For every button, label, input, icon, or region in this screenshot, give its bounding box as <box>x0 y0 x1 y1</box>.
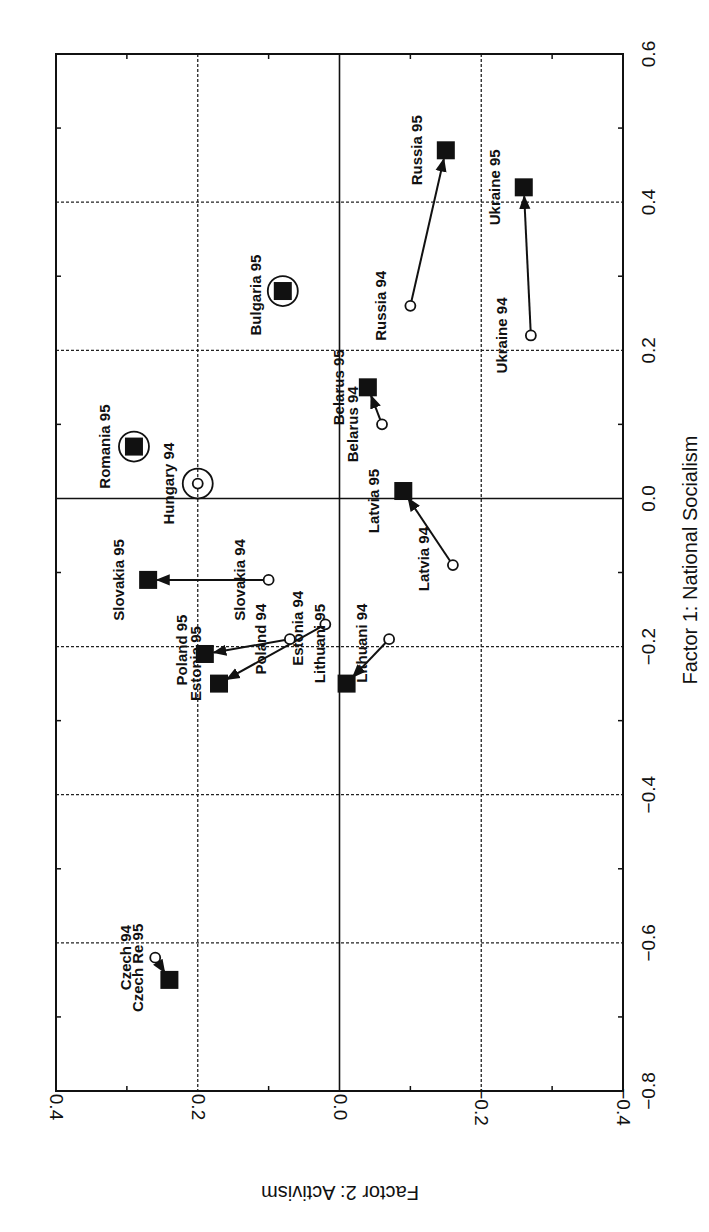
x-tick-label: −0.6 <box>638 924 659 962</box>
arrow-poland94-to-poland95 <box>214 640 285 652</box>
arrow-estonia94-to-estonia95 <box>227 627 321 679</box>
y-tick-label: −0.2 <box>471 1088 492 1126</box>
point-label-russia94: Russia 94 <box>372 270 389 341</box>
marker-square-russia95 <box>437 141 455 159</box>
point-label-bulgaria95: Bulgaria 95 <box>247 255 264 336</box>
scatter-chart: −0.8−0.6−0.4−0.20.00.20.40.6−0.4−0.20.00… <box>0 0 709 1232</box>
x-axis-title: Factor 1: National Socialism <box>679 436 701 685</box>
marker-circle-lithuania94 <box>384 634 394 644</box>
point-label-poland94: Poland 94 <box>252 603 269 675</box>
point-label-romania95: Romania 95 <box>96 404 113 488</box>
arrow-belarus94-to-belarus95 <box>371 396 380 420</box>
point-label-slovakia94: Slovakia 94 <box>231 538 248 620</box>
marker-square-bulgaria95 <box>274 282 292 300</box>
point-label-latvia94: Latvia 94 <box>415 526 432 591</box>
x-tick-label: −0.8 <box>638 1072 659 1110</box>
point-label-ukraine94: Ukraine 94 <box>493 297 510 374</box>
x-tick-label: −0.4 <box>638 776 659 814</box>
marker-square-slovakia95 <box>139 571 157 589</box>
x-tick-label: 0.0 <box>638 485 659 511</box>
x-tick-label: 0.4 <box>638 189 659 216</box>
point-label-lithuania95: Lithuani 95 <box>311 604 328 683</box>
marker-circle-czech94 <box>150 953 160 963</box>
y-tick-label: 0.2 <box>188 1094 209 1120</box>
marker-circle-russia94 <box>405 301 415 311</box>
y-tick-label: 0.4 <box>46 1094 67 1121</box>
x-tick-label: 0.2 <box>638 337 659 363</box>
marker-square-estonia95 <box>210 675 228 693</box>
point-label-latvia95: Latvia 95 <box>365 469 382 533</box>
arrow-czech94-to-czech95 <box>158 962 165 972</box>
x-tick-label: 0.6 <box>638 41 659 67</box>
y-tick-label: 0.0 <box>330 1094 351 1120</box>
marker-circle-slovakia94 <box>264 575 274 585</box>
y-tick-label: −0.4 <box>613 1088 634 1126</box>
marker-circle-belarus94 <box>377 419 387 429</box>
point-label-hungary94: Hungary 94 <box>160 442 177 524</box>
marker-square-belarus95 <box>359 378 377 396</box>
marker-square-romania95 <box>125 438 143 456</box>
marker-circle-hungary94 <box>193 479 203 489</box>
marker-square-czech95 <box>160 971 178 989</box>
point-label-lithuania94: Lithuani 94 <box>353 603 370 683</box>
point-label-estonia94: Estonia 94 <box>289 590 306 666</box>
data-points <box>119 141 536 989</box>
marker-square-latvia95 <box>394 482 412 500</box>
point-label-ukraine95: Ukraine 95 <box>486 149 503 225</box>
marker-square-ukraine95 <box>515 178 533 196</box>
y-axis-title: Factor 2: Activism <box>261 1182 419 1204</box>
point-label-czech95: Czech Re 95 <box>129 924 146 1012</box>
point-label-russia95: Russia 95 <box>408 115 425 185</box>
marker-circle-ukraine94 <box>526 330 536 340</box>
point-label-slovakia95: Slovakia 95 <box>110 539 127 621</box>
point-label-belarus95: Belarus 95 <box>330 349 347 425</box>
point-label-estonia95: Estonia 95 <box>187 626 204 701</box>
x-tick-label: −0.2 <box>638 628 659 666</box>
arrow-ukraine94-to-ukraine95 <box>524 196 530 330</box>
change-arrows <box>157 159 530 972</box>
marker-circle-latvia94 <box>448 560 458 570</box>
